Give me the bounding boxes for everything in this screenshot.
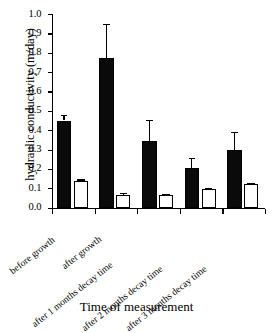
x-axis-line [52, 208, 265, 209]
y-tick-label-0.9: 0.9 [28, 27, 41, 39]
error-bar-cap [247, 183, 255, 184]
x-tick-2 [137, 209, 138, 214]
y-tick-label-0.8: 0.8 [28, 46, 41, 58]
x-tick-1 [95, 209, 96, 214]
x-tick-label-3: after 2 months decay time [79, 263, 164, 333]
plot-area: 0.00.10.20.30.40.50.60.70.80.91.0 [52, 14, 265, 209]
error-bar-cap [120, 193, 128, 194]
y-tick-0.7: 0.7 [48, 72, 53, 73]
y-tick-0.5: 0.5 [48, 111, 53, 112]
error-bar-line [234, 132, 235, 149]
y-tick-0.6: 0.6 [48, 91, 53, 92]
y-tick-label-0.1: 0.1 [28, 182, 41, 194]
x-tick-4 [222, 209, 223, 214]
y-tick-label-0.2: 0.2 [28, 162, 41, 174]
y-tick-label-0.4: 0.4 [28, 124, 41, 136]
error-bar-cap [162, 194, 170, 195]
bar-open-0 [74, 181, 88, 208]
error-bar-line [106, 24, 107, 58]
y-tick-label-0.7: 0.7 [28, 66, 41, 78]
error-bar-cap [189, 158, 196, 159]
error-bar-cap [77, 179, 85, 180]
x-tick-label-0: before growth [7, 234, 56, 276]
bar-filled-4 [227, 150, 242, 208]
error-bar-cap [61, 115, 68, 116]
bar-filled-1 [99, 58, 114, 208]
bar-filled-0 [57, 121, 72, 208]
y-axis-line [52, 14, 53, 209]
error-bar-line [191, 158, 192, 168]
error-bar-cap [146, 120, 153, 121]
y-tick-0.4: 0.4 [48, 130, 53, 131]
bar-open-4 [244, 184, 258, 208]
error-bar-cap [205, 188, 213, 189]
x-tick-5 [265, 209, 266, 214]
y-tick-1.0: 1.0 [48, 14, 53, 15]
x-tick-0 [52, 209, 53, 214]
y-tick-label-0.5: 0.5 [28, 104, 41, 116]
y-tick-0.9: 0.9 [48, 33, 53, 34]
y-tick-label-0.6: 0.6 [28, 85, 41, 97]
x-tick-label-1: after growth [59, 233, 103, 271]
y-tick-label-0.3: 0.3 [28, 143, 41, 155]
x-tick-label-2: after 1 months decay time [29, 259, 114, 329]
bar-filled-3 [185, 168, 200, 208]
y-tick-label-1.0: 1.0 [28, 8, 41, 20]
y-tick-0.3: 0.3 [48, 150, 53, 151]
y-tick-0.8: 0.8 [48, 53, 53, 54]
bar-open-3 [202, 189, 216, 208]
error-bar-cap [231, 132, 238, 133]
x-axis-title: Time of measurement [0, 299, 273, 315]
x-tick-label-4: after 3 months decay time [123, 263, 208, 333]
bar-open-1 [116, 195, 130, 208]
y-tick-0.1: 0.1 [48, 188, 53, 189]
x-tick-3 [180, 209, 181, 214]
error-bar-line [149, 120, 150, 141]
y-tick-label-0.0: 0.0 [28, 201, 41, 213]
bar-open-2 [159, 195, 173, 207]
bar-filled-2 [142, 141, 157, 208]
y-tick-0.2: 0.2 [48, 169, 53, 170]
error-bar-cap [103, 24, 110, 25]
